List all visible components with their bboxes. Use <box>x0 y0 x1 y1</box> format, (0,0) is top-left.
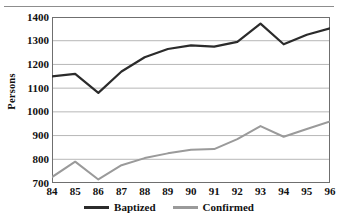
y-tick-label: 1200 <box>3 59 49 70</box>
plot-area <box>52 17 330 183</box>
y-tick-label: 1000 <box>3 106 49 117</box>
legend-entry-baptized[interactable]: Baptized <box>84 202 156 213</box>
legend-swatch-icon <box>173 206 198 209</box>
x-axis-tick-labels: 84858687888990919293949596 <box>52 186 330 200</box>
chart-figure: Persons 14001300120011001000900800700 84… <box>0 0 338 218</box>
plot-svg <box>52 17 330 183</box>
series-line-baptized <box>52 24 330 93</box>
chart-legend: BaptizedConfirmed <box>0 202 338 213</box>
series-line-confirmed <box>52 121 330 179</box>
y-tick-label: 1300 <box>3 35 49 46</box>
y-tick-label: 1400 <box>3 12 49 23</box>
legend-swatch-icon <box>84 206 109 209</box>
legend-entry-confirmed[interactable]: Confirmed <box>173 202 254 213</box>
data-series-layer <box>52 24 330 180</box>
y-axis-tick-labels: 14001300120011001000900800700 <box>0 17 49 183</box>
x-tick-label: 96 <box>315 186 338 197</box>
y-tick-label: 800 <box>3 154 49 165</box>
legend-label: Confirmed <box>203 202 254 213</box>
y-tick-label: 900 <box>3 130 49 141</box>
y-tick-label: 1100 <box>3 83 49 94</box>
legend-label: Baptized <box>114 202 156 213</box>
top-divider-rule <box>4 6 334 7</box>
